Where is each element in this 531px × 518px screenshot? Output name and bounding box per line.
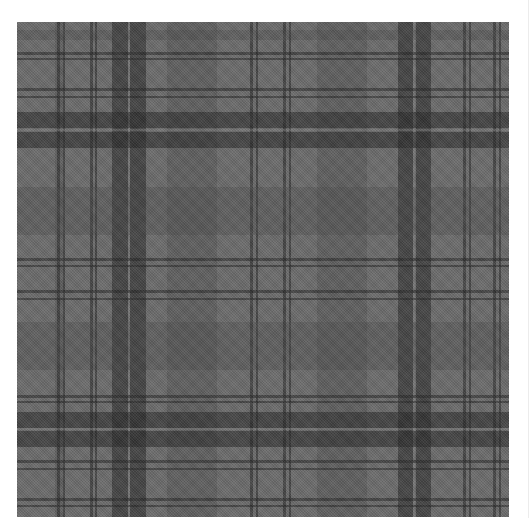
horizontal-stripe [17, 395, 509, 398]
horizontal-stripe [17, 265, 509, 267]
horizontal-stripe [17, 88, 509, 91]
horizontal-stripe [17, 428, 509, 430]
horizontal-stripe [17, 58, 509, 60]
horizontal-stripe [17, 96, 509, 98]
horizontal-stripe [17, 112, 509, 128]
horizontal-stripe [17, 412, 509, 428]
horizontal-stripe [17, 187, 509, 235]
image-edge-line [528, 0, 529, 518]
horizontal-stripe [17, 132, 509, 148]
horizontal-stripe [17, 290, 509, 293]
horizontal-stripe [17, 52, 509, 55]
horizontal-stripe [17, 505, 509, 507]
horizontal-stripe [17, 431, 509, 447]
horizontal-stripe [17, 30, 509, 40]
horizontal-stripe [17, 322, 509, 370]
horizontal-stripe [17, 468, 509, 470]
horizontal-stripe [17, 129, 509, 131]
tartan-fabric-image [17, 22, 509, 517]
horizontal-stripe [17, 258, 509, 261]
horizontal-stripe [17, 298, 509, 300]
horizontal-stripe [17, 401, 509, 403]
horizontal-stripe [17, 460, 509, 463]
horizontal-stripe [17, 498, 509, 501]
